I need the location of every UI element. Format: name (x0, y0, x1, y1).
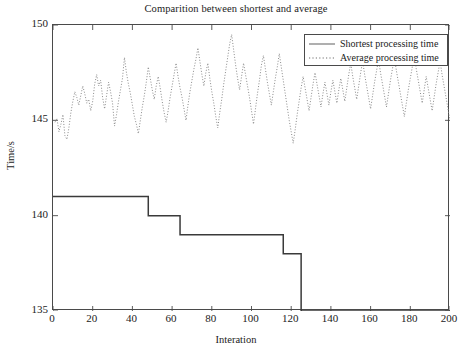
x-tick-160: 160 (350, 313, 390, 324)
legend-line-dotted-icon (308, 53, 336, 63)
chart-title: Comparition between shortest and average (0, 3, 472, 14)
legend-label-shortest: Shortest processing time (340, 39, 438, 49)
x-tick-80: 80 (191, 313, 231, 324)
y-tick-150: 150 (4, 18, 48, 29)
x-tick-120: 120 (270, 313, 310, 324)
x-axis-label: Interation (0, 334, 472, 345)
y-tick-140: 140 (4, 209, 48, 220)
plot-area (52, 24, 449, 310)
x-tick-20: 20 (72, 313, 112, 324)
y-tick-145: 145 (4, 113, 48, 124)
x-tick-40: 40 (111, 313, 151, 324)
x-tick-60: 60 (151, 313, 191, 324)
x-tick-140: 140 (310, 313, 350, 324)
legend-item-shortest: Shortest processing time (308, 37, 444, 51)
y-axis-label: Time/s (5, 126, 16, 186)
x-tick-0: 0 (32, 313, 72, 324)
legend-label-average: Average processing time (340, 53, 439, 63)
x-tick-180: 180 (389, 313, 429, 324)
plot-svg (53, 25, 450, 311)
x-tick-100: 100 (231, 313, 271, 324)
chart-figure: Comparition between shortest and average… (0, 0, 472, 355)
x-tick-200: 200 (429, 313, 469, 324)
chart-legend: Shortest processing time Average process… (304, 34, 448, 66)
legend-line-solid-icon (308, 39, 336, 49)
legend-item-average: Average processing time (308, 51, 444, 65)
